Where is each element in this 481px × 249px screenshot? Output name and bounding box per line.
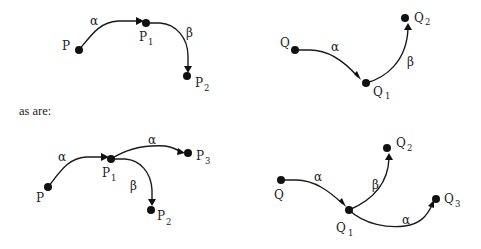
- label-beta: β: [407, 55, 414, 69]
- edge-alpha: [295, 50, 358, 77]
- label-q2-sub: 2: [425, 17, 430, 27]
- node-p: [44, 183, 52, 191]
- edge-alpha-1: [281, 180, 343, 204]
- node-p1: [107, 155, 115, 163]
- edge-alpha-2: [349, 205, 432, 227]
- label-p: P: [36, 191, 44, 205]
- edge-alpha-1: [48, 157, 105, 187]
- label-p: P: [62, 39, 70, 53]
- path-diagrams: P P 1 P 2 α β Q Q 1 Q 2 α β P P: [0, 0, 481, 249]
- label-alpha-1: α: [58, 150, 66, 164]
- label-p2: P: [157, 209, 165, 223]
- label-p2-sub: 2: [166, 217, 171, 227]
- arrowhead-icon: [184, 66, 192, 73]
- label-q2-sub: 2: [407, 143, 412, 153]
- arrowhead-icon: [385, 153, 393, 160]
- label-p1-sub: 1: [111, 173, 116, 183]
- label-q1: Q: [373, 85, 383, 99]
- label-alpha-2: α: [148, 133, 156, 147]
- label-alpha-2: α: [402, 213, 410, 227]
- arrowhead-icon: [339, 198, 346, 207]
- label-p3-sub: 3: [205, 156, 210, 166]
- label-q: Q: [280, 36, 290, 50]
- label-q2: Q: [414, 11, 424, 25]
- label-p2: P: [195, 76, 203, 90]
- label-p3: P: [196, 149, 204, 163]
- label-q3: Q: [444, 192, 454, 206]
- node-p2: [183, 72, 191, 80]
- node-p: [75, 46, 83, 54]
- node-p2: [147, 206, 155, 214]
- label-p2-sub: 2: [204, 83, 209, 93]
- edge-beta: [349, 158, 389, 210]
- node-q1: [362, 79, 370, 87]
- label-beta: β: [186, 26, 193, 40]
- node-q: [291, 46, 299, 54]
- diagram-top-left: P P 1 P 2 α β: [62, 14, 209, 93]
- arrowhead-icon: [148, 199, 156, 206]
- node-q2: [401, 14, 409, 22]
- label-alpha: α: [90, 14, 98, 28]
- label-q2: Q: [396, 136, 406, 150]
- label-q1: Q: [336, 221, 346, 235]
- label-q: Q: [274, 188, 284, 202]
- label-beta: β: [130, 179, 137, 193]
- arrowhead-icon: [404, 23, 412, 30]
- label-q1-sub: 1: [385, 91, 390, 101]
- label-beta: β: [372, 178, 379, 192]
- diagram-top-right: Q Q 1 Q 2 α β: [280, 11, 430, 101]
- edge-alpha-2: [111, 146, 181, 159]
- label-p1: P: [102, 166, 110, 180]
- arrowhead-icon: [177, 148, 185, 155]
- node-q1: [345, 206, 353, 214]
- label-p1-sub: 1: [148, 37, 153, 47]
- label-alpha: α: [331, 40, 339, 54]
- label-q3-sub: 3: [455, 199, 460, 209]
- diagram-bottom-right: Q Q 1 Q 2 Q 3 α β α: [274, 136, 460, 238]
- node-q: [277, 176, 285, 184]
- label-p1: P: [139, 30, 147, 44]
- diagram-bottom-left: P P 1 P 2 P 3 α β α: [36, 133, 210, 227]
- edge-beta: [366, 28, 408, 83]
- edge-alpha: [79, 21, 140, 50]
- arrowhead-icon: [354, 71, 361, 80]
- label-q1-sub: 1: [348, 228, 353, 238]
- label-alpha-1: α: [314, 170, 322, 184]
- node-q2: [383, 144, 391, 152]
- node-p1: [142, 19, 150, 27]
- node-q3: [432, 195, 440, 203]
- node-p3: [184, 149, 192, 157]
